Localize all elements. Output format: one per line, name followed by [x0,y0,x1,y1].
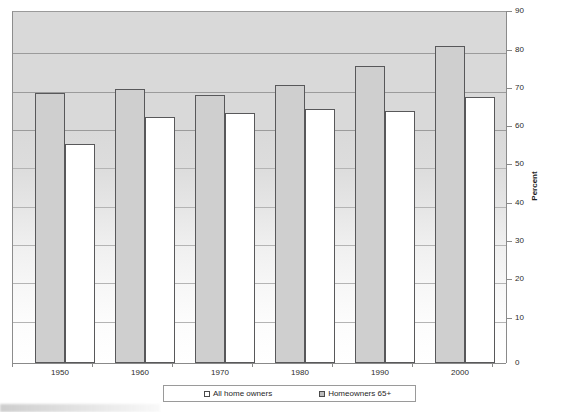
x-axis-line [12,363,506,364]
bar-1960-all-home-owners [115,89,145,363]
bar-1980-homeowners-65 [305,109,335,363]
y-tick-label-50: 50 [515,160,524,168]
y-tick-label-40: 40 [515,199,524,207]
y-tick-label-80: 80 [515,46,524,54]
x-tick-1990-2000 [412,363,413,367]
legend-item-all-home-owners: All home owners [204,390,272,398]
y-tick-label-10: 10 [515,314,524,322]
bar-1990-all-home-owners [355,66,385,363]
y-tick-10 [506,318,512,319]
bars-layer [12,11,506,363]
y-tick-label-90: 90 [515,7,524,15]
x-label-1950: 1950 [51,368,69,377]
legend-swatch-icon-all-home-owners [204,391,210,397]
bar-chart: 90 80 70 60 50 40 30 20 10 0 Percent 195… [0,0,561,412]
legend-label-homeowners-65: Homeowners 65+ [328,390,391,398]
y-tick-label-20: 20 [515,275,524,283]
x-label-1970: 1970 [211,368,229,377]
x-tick-1970-1980 [252,363,253,367]
bar-1990-homeowners-65 [385,111,415,363]
x-label-1980: 1980 [291,368,309,377]
y-tick-90 [506,11,512,12]
x-tick-1950-1960 [92,363,93,367]
bar-1980-all-home-owners [275,85,305,363]
bar-1970-homeowners-65 [225,113,255,363]
y-tick-40 [506,203,512,204]
x-label-2000: 2000 [451,368,469,377]
y-tick-60 [506,126,512,127]
x-label-1960: 1960 [131,368,149,377]
bar-1950-homeowners-65 [65,144,95,363]
y-tick-label-30: 30 [515,237,524,245]
bar-2000-all-home-owners [435,46,465,363]
y-tick-50 [506,164,512,165]
y-tick-label-60: 60 [515,122,524,130]
x-tick-start [12,363,13,367]
legend-label-all-home-owners: All home owners [213,390,272,398]
legend-item-homeowners-65: Homeowners 65+ [319,390,391,398]
y-axis-line [506,11,507,363]
x-label-1990: 1990 [371,368,389,377]
x-tick-end [492,363,493,367]
y-tick-label-70: 70 [515,84,524,92]
bar-1970-all-home-owners [195,95,225,363]
bar-1960-homeowners-65 [145,117,175,363]
chart-legend: All home owners Homeowners 65+ [163,385,416,402]
y-tick-label-0: 0 [515,359,519,367]
y-tick-30 [506,241,512,242]
bar-2000-homeowners-65 [465,97,495,363]
bar-1950-all-home-owners [35,93,65,363]
y-tick-70 [506,88,512,89]
y-axis-title: Percent [530,171,539,200]
y-tick-80 [506,50,512,51]
scan-artifact [0,404,160,412]
y-tick-20 [506,279,512,280]
x-tick-1980-1990 [332,363,333,367]
legend-swatch-icon-homeowners-65 [319,391,325,397]
x-tick-1960-1970 [172,363,173,367]
